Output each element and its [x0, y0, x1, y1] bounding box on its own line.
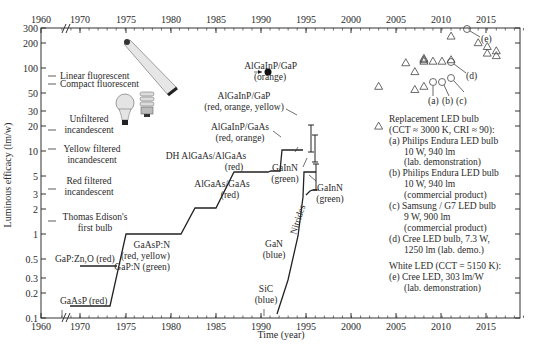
label-d: (d)	[466, 71, 477, 82]
chart-svg: 1960196019701970197519751980198019851985…	[0, 0, 534, 349]
label-b: (b)	[442, 96, 453, 107]
x-tick-label-top: 2005	[386, 14, 406, 25]
y-tick-label: 5	[33, 171, 38, 182]
legend-line: 10 W, 940 lm	[404, 179, 456, 189]
triangle-marker	[447, 32, 455, 39]
y-tick-label: 0.3	[26, 273, 39, 284]
label-c: (c)	[456, 96, 467, 107]
x-tick-label: 2015	[476, 321, 496, 332]
x-tick-label: 2000	[341, 321, 361, 332]
label-gainn-1a: GaInN	[272, 163, 298, 173]
label-a: (a)	[428, 96, 439, 107]
label-algainp-gap-1: AlGaInP/GaP	[218, 91, 271, 101]
triangle-marker	[375, 82, 383, 89]
label-orange-1: AlGaInP/GaP	[244, 61, 297, 71]
legend-block: Replacement LED bulb (CCT ≈ 3000 K, CRI …	[389, 114, 501, 294]
y-tick-label: 20	[28, 121, 38, 132]
triangle-marker	[492, 52, 500, 59]
label-nitrides: Nitrides	[288, 203, 307, 235]
bulb-circles	[430, 26, 481, 97]
incandescent-bulb-icon	[116, 94, 134, 125]
y-axis-title: Luminous efficacy (lm/w)	[2, 123, 14, 228]
legend-line: (c) Samsung / G7 LED bulb	[389, 201, 496, 212]
y-tick-label: 50	[28, 88, 38, 99]
legend-line: (b) Philips Endura LED bulb	[389, 168, 499, 179]
label-algainp-gap-2: (red, orange, yellow)	[204, 102, 284, 113]
label-compact-fluorescent: Compact fluorescent	[60, 79, 139, 89]
x-tick-label-top: 1975	[116, 14, 136, 25]
legend-line: (e) Cree LED, 303 lm/W	[389, 272, 484, 283]
y-tick-label: 0.2	[26, 288, 39, 299]
x-tick-label-top: 1990	[251, 14, 271, 25]
x-axis-title: Time (year)	[257, 329, 304, 341]
y-tick-label: 0.5	[26, 254, 39, 265]
y-tick-label: 10	[28, 146, 38, 157]
efficacy-chart: 1960196019701970197519751980198019851985…	[0, 0, 534, 349]
triangle-marker	[375, 122, 383, 129]
label-dh-algaas-2: (red)	[225, 162, 243, 173]
label-algainp-gaas-2: (red, orange)	[215, 133, 264, 144]
legend-line: Replacement LED bulb	[389, 114, 479, 124]
error-bars	[308, 125, 319, 190]
point-b	[439, 79, 446, 86]
triangle-marker	[438, 57, 446, 64]
label-yellow-filtered-2: incandescent	[67, 155, 116, 165]
x-tick-label: 1975	[116, 321, 136, 332]
label-red-filtered-1: Red filtered	[66, 176, 111, 186]
label-gainn-1b: (green)	[271, 174, 298, 185]
label-gainn-2a: GaInN	[317, 183, 343, 193]
x-tick-label: 2005	[386, 321, 406, 332]
legend-line: (a) Philips Endura LED bulb	[389, 136, 498, 147]
triangle-marker	[411, 85, 419, 92]
triangle-marker	[411, 68, 419, 75]
label-gaaspn-2: (red, yellow)	[121, 251, 170, 262]
legend-line: (commercial product)	[404, 190, 487, 201]
point-d	[448, 59, 455, 66]
legend-line: White LED (CCT = 5150 K):	[389, 261, 501, 272]
label-gapzno: GaP:Zn,O (red)	[55, 254, 115, 265]
y-tick-label: 1	[33, 229, 38, 240]
label-yellow-filtered-1: Yellow filtered	[64, 144, 121, 154]
legend-line: 9 W, 900 lm	[404, 212, 451, 222]
x-tick-label-top: 2015	[476, 14, 496, 25]
label-edison-1: Thomas Edison's	[63, 212, 128, 222]
legend-line: (lab. demonstration)	[404, 283, 481, 294]
label-unfiltered-1: Unfiltered	[69, 114, 108, 124]
label-gainn-2b: (green)	[316, 194, 343, 205]
legend-line: (d) Cree LED bulb, 7.3 W,	[389, 234, 490, 245]
point-a	[430, 79, 437, 86]
label-e: (e)	[481, 34, 492, 45]
legend-line: (CCT ≈ 3000 K, CRI ≈ 90):	[389, 125, 495, 136]
label-algaas-2: (red)	[221, 190, 239, 201]
x-tick-label-top: 1980	[161, 14, 181, 25]
x-tick-label: 1985	[206, 321, 226, 332]
legend-line: (lab. demonstration)	[404, 157, 481, 168]
legend-line: 1250 lm (lab. demo.)	[404, 245, 484, 256]
label-gan-1: GaN	[265, 239, 283, 249]
label-algaas-1: AlGaAs/GaAs	[194, 179, 250, 189]
lamp-arrows	[48, 76, 56, 221]
legend-line: 10 W, 940 lm	[404, 147, 456, 157]
triangle-marker	[429, 57, 437, 64]
label-red-filtered-2: incandescent	[64, 187, 113, 197]
triangle-marker	[492, 47, 500, 54]
y-tick-label: 200	[23, 38, 38, 49]
label-dh-algaas-1: DH AlGaAs/AlGaAs	[166, 151, 247, 161]
cfl-bulb-icon	[140, 92, 154, 117]
label-algainp-gaas-1: AlGaInP/GaAs	[211, 122, 269, 132]
triangle-marker	[420, 82, 428, 89]
label-sic-1: SiC	[259, 284, 273, 294]
x-tick-label-top: 2010	[431, 14, 451, 25]
x-tick-label-top: 1985	[206, 14, 226, 25]
label-gan-2: (blue)	[263, 250, 286, 261]
label-gaaspn-1: GaAsP:N	[134, 240, 171, 250]
x-tick-label: 2010	[431, 321, 451, 332]
y-tick-label: 2	[33, 204, 38, 215]
x-tick-label: 1980	[161, 321, 181, 332]
point-c	[448, 75, 455, 82]
triangle-marker	[402, 59, 410, 66]
y-tick-label: 30	[28, 106, 38, 117]
label-gaasp: GaAsP (red)	[60, 296, 107, 307]
label-unfiltered-2: incandescent	[64, 125, 113, 135]
label-sic-2: (blue)	[255, 295, 278, 306]
